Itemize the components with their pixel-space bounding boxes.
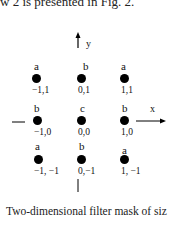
point-coord: 1,1 (121, 85, 133, 95)
mask-point (32, 74, 41, 83)
mask-point (33, 116, 42, 125)
weight-label: c (80, 103, 85, 114)
mask-point (77, 155, 86, 164)
mask-point (77, 116, 86, 125)
point-coord: 1,0 (121, 127, 133, 137)
weight-label: b (83, 61, 89, 72)
x-axis-arrow-icon (160, 119, 166, 124)
mask-point (34, 155, 43, 164)
mask-point (120, 116, 129, 125)
mask-point (77, 74, 86, 83)
figure-caption: Two-dimensional filter mask of siz (6, 205, 167, 217)
mask-point (120, 74, 129, 83)
weight-label: b (79, 141, 85, 152)
mask-point (120, 155, 129, 164)
y-axis-arrow-icon (76, 32, 81, 38)
point-coord: −1, −1 (34, 166, 59, 176)
point-coord: 0,−1 (78, 166, 95, 176)
weight-label: a (35, 141, 40, 152)
point-coord: −1,0 (34, 127, 51, 137)
weight-label: a (34, 61, 39, 72)
point-coord: −1,1 (32, 85, 49, 95)
weight-label: b (34, 103, 40, 114)
x-axis-label: x (150, 104, 155, 114)
y-axis-label: y (86, 39, 91, 49)
point-coord: 1, −1 (121, 166, 141, 176)
weight-label: b (122, 103, 128, 114)
point-coord: 0,1 (78, 85, 90, 95)
weight-label: a (121, 61, 126, 72)
point-coord: 0,0 (78, 127, 90, 137)
